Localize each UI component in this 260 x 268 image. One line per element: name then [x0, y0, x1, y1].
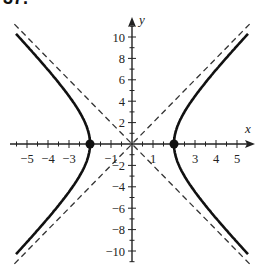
- x-tick-label: −3: [62, 152, 75, 166]
- x-axis-label: x: [244, 121, 251, 136]
- axes: [10, 17, 255, 262]
- y-tick-label: 6: [119, 73, 125, 87]
- y-tick-label: −8: [112, 223, 125, 237]
- x-tick-label: 5: [234, 152, 240, 166]
- y-tick-label: 4: [119, 95, 126, 109]
- x-tick-label: −5: [20, 152, 33, 166]
- y-axis-label: y: [137, 12, 145, 27]
- x-tick-label: 4: [213, 152, 220, 166]
- hyperbola-graph: 37. −5−4−3−11345108642−2−4−6−8−10 x y: [0, 0, 260, 268]
- vertex-dot: [86, 140, 95, 149]
- x-tick-label: 3: [192, 152, 198, 166]
- x-tick-label: −4: [41, 152, 55, 166]
- problem-number: 37.: [3, 0, 28, 8]
- y-tick-label: −4: [112, 180, 126, 194]
- x-tick-label: 1: [150, 152, 156, 166]
- y-tick-label: 10: [113, 31, 126, 45]
- vertex-dot: [170, 140, 179, 149]
- y-tick-label: −2: [112, 159, 125, 173]
- y-tick-label: 2: [119, 116, 125, 130]
- y-tick-label: −6: [112, 202, 125, 216]
- y-tick-label: 8: [119, 52, 125, 66]
- y-tick-label: −10: [105, 245, 125, 259]
